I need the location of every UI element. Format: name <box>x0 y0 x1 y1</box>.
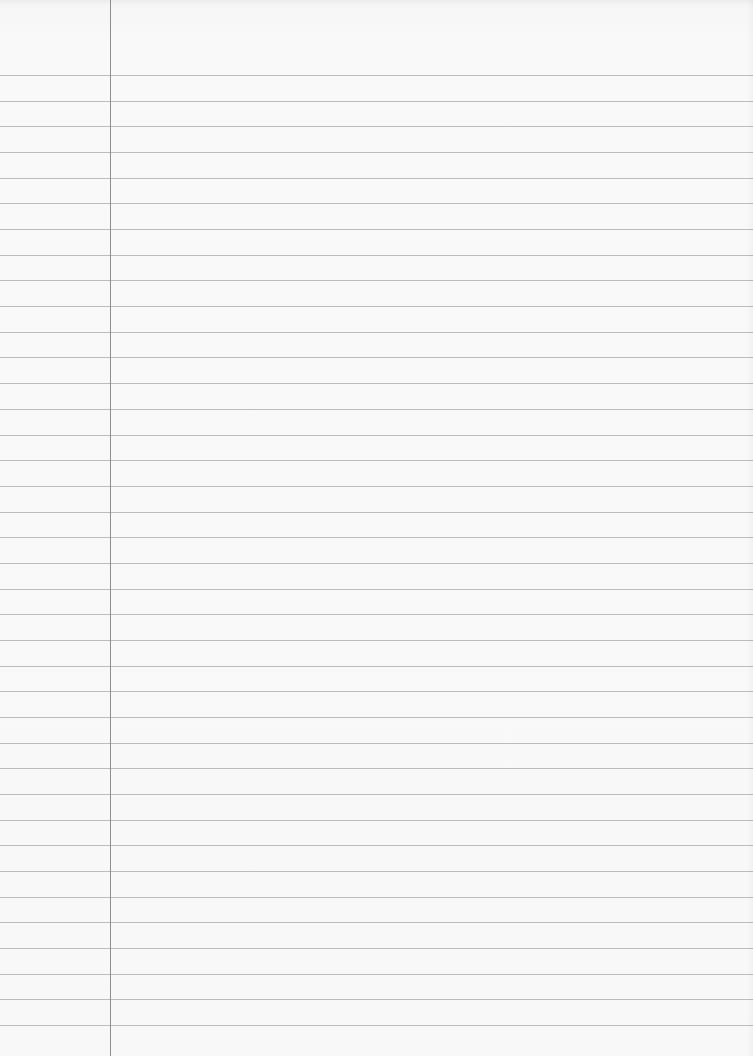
rule-line <box>0 897 753 898</box>
rule-line <box>0 152 753 153</box>
edge-shadow <box>747 0 753 1056</box>
rule-line <box>0 922 753 923</box>
rule-line <box>0 126 753 127</box>
rule-line <box>0 999 753 1000</box>
margin-line <box>110 0 111 1056</box>
lined-paper <box>0 0 753 1056</box>
rule-line <box>0 1025 753 1026</box>
rule-line <box>0 486 753 487</box>
rule-line <box>0 460 753 461</box>
rule-line <box>0 537 753 538</box>
rule-line <box>0 666 753 667</box>
rule-line <box>0 332 753 333</box>
rule-line <box>0 743 753 744</box>
rule-line <box>0 435 753 436</box>
rule-line <box>0 383 753 384</box>
rule-line <box>0 845 753 846</box>
rule-line <box>0 203 753 204</box>
rule-line <box>0 871 753 872</box>
rule-line <box>0 717 753 718</box>
rule-line <box>0 691 753 692</box>
rule-line <box>0 280 753 281</box>
rule-line <box>0 512 753 513</box>
rule-line <box>0 75 753 76</box>
rule-line <box>0 614 753 615</box>
rule-line <box>0 794 753 795</box>
rule-line <box>0 101 753 102</box>
rule-line <box>0 948 753 949</box>
rule-line <box>0 255 753 256</box>
rule-line <box>0 409 753 410</box>
rule-line <box>0 640 753 641</box>
rule-line <box>0 589 753 590</box>
rule-line <box>0 563 753 564</box>
rule-line <box>0 229 753 230</box>
rule-line <box>0 768 753 769</box>
rule-line <box>0 974 753 975</box>
rule-line <box>0 820 753 821</box>
rule-line <box>0 178 753 179</box>
rule-line <box>0 357 753 358</box>
rule-line <box>0 306 753 307</box>
